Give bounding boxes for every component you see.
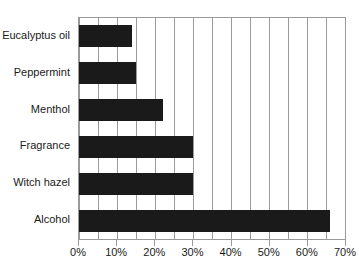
bar-row	[79, 202, 345, 239]
tick-mark	[231, 239, 232, 246]
tick-label: 60%	[296, 247, 318, 258]
tick-mark	[192, 239, 193, 246]
bar-row	[79, 165, 345, 202]
tick-mark	[269, 239, 270, 246]
bar-row	[79, 92, 345, 129]
category-label: Alcohol	[0, 201, 74, 238]
tick-mark	[345, 239, 346, 246]
tick-mark	[78, 239, 79, 246]
bar-row	[79, 55, 345, 92]
bar-series	[79, 18, 345, 239]
bar-chart: Eucalyptus oilPeppermintMentholFragrance…	[0, 0, 359, 261]
bar[interactable]	[79, 173, 193, 195]
tick-label: 0%	[70, 247, 86, 258]
tick-label: 70%	[334, 247, 356, 258]
gridline	[345, 18, 346, 239]
bar-row	[79, 128, 345, 165]
plot-area	[78, 17, 346, 240]
bar[interactable]	[79, 210, 330, 232]
category-axis-labels: Eucalyptus oilPeppermintMentholFragrance…	[0, 17, 74, 238]
category-label: Eucalyptus oil	[0, 17, 74, 54]
category-label: Witch hazel	[0, 164, 74, 201]
category-label: Menthol	[0, 91, 74, 128]
bar[interactable]	[79, 136, 193, 158]
bar[interactable]	[79, 25, 132, 47]
tick-mark	[154, 239, 155, 246]
bar[interactable]	[79, 62, 136, 84]
tick-mark	[116, 239, 117, 246]
tick-label: 10%	[105, 247, 127, 258]
bar[interactable]	[79, 99, 163, 121]
tick-label: 20%	[143, 247, 165, 258]
category-label: Fragrance	[0, 127, 74, 164]
bar-row	[79, 18, 345, 55]
tick-mark	[307, 239, 308, 246]
tick-label: 30%	[181, 247, 203, 258]
tick-label: 40%	[220, 247, 242, 258]
tick-label: 50%	[258, 247, 280, 258]
category-label: Peppermint	[0, 54, 74, 91]
value-axis: 0%10%20%30%40%50%60%70%	[78, 239, 345, 261]
